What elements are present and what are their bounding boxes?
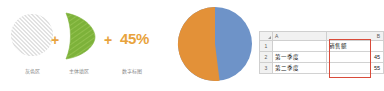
infographic-panel: + + 45% 灰色区 主体填区 数字标图 [0, 0, 160, 91]
cell-a2[interactable]: 第一季度 [273, 52, 327, 63]
table-row[interactable]: 1 销售额 [260, 41, 384, 52]
pie-slice-first-quarter [178, 7, 220, 81]
cell-b2[interactable]: 45 [327, 52, 384, 63]
plus-operator-2: + [104, 33, 112, 47]
caption-gray-shape: 灰色区 [9, 68, 55, 75]
spreadsheet-panel[interactable]: A B 1 销售额 2 第一季度 45 3 第二季度 55 [259, 31, 371, 78]
caption-percent: 数字标图 [108, 68, 156, 75]
pie-chart [177, 6, 253, 82]
column-header-b[interactable]: B [327, 32, 384, 41]
plus-operator-1: + [51, 33, 59, 47]
row-header-1[interactable]: 1 [260, 41, 273, 52]
green-leaf-svg [62, 11, 96, 61]
leaf-body [66, 13, 95, 59]
green-hatched-leaf-icon [62, 11, 96, 61]
percent-value-label: 45% [120, 31, 149, 47]
table-row[interactable]: 2 第一季度 45 [260, 52, 384, 63]
select-all-triangle-icon[interactable] [260, 32, 273, 41]
cell-a1[interactable] [273, 41, 327, 52]
cell-b3[interactable]: 55 [327, 63, 384, 74]
spreadsheet-table[interactable]: A B 1 销售额 2 第一季度 45 3 第二季度 55 [259, 31, 384, 74]
gray-textured-circle-icon [11, 14, 53, 56]
column-header-row: A B [260, 32, 384, 41]
row-header-3[interactable]: 3 [260, 63, 273, 74]
gray-circle-disc [11, 14, 53, 56]
row-header-2[interactable]: 2 [260, 52, 273, 63]
cell-a3[interactable]: 第二季度 [273, 63, 327, 74]
caption-green-shape: 主体填区 [57, 68, 101, 75]
cell-b1[interactable]: 销售额 [327, 41, 384, 52]
select-all-triangle-glyph [268, 36, 271, 39]
table-row[interactable]: 3 第二季度 55 [260, 63, 384, 74]
column-header-a[interactable]: A [273, 32, 327, 41]
